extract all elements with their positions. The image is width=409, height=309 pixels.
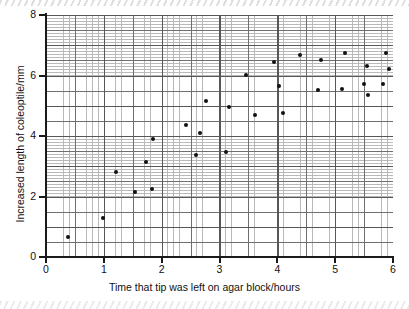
y-tick-mark xyxy=(39,75,46,77)
y-tick-mark xyxy=(39,14,46,16)
y-tick-mark xyxy=(39,196,46,198)
data-point xyxy=(365,64,369,68)
x-tick-label: 2 xyxy=(159,263,165,275)
x-tick-label: 0 xyxy=(43,263,49,275)
y-tick-label-text: 2 xyxy=(30,190,36,202)
x-axis-title: Time that tip was left on agar block/hou… xyxy=(0,281,409,293)
data-point xyxy=(224,150,228,154)
data-point xyxy=(244,73,248,77)
data-point xyxy=(150,187,154,191)
data-point xyxy=(198,131,202,135)
x-tick-label: 3 xyxy=(217,263,223,275)
data-point xyxy=(114,170,118,174)
y-tick-label-text: 4 xyxy=(30,129,36,141)
y-axis-title: Increased length of coleoptile/mm xyxy=(14,19,26,269)
grid-bold xyxy=(46,15,393,257)
x-tick-label: 4 xyxy=(274,263,280,275)
y-tick-label-text: 6 xyxy=(30,69,36,81)
y-tick-mark xyxy=(39,135,46,137)
y-tick-label-text: 8 xyxy=(30,8,36,20)
x-tick-label: 1 xyxy=(101,263,107,275)
plot-area xyxy=(46,15,393,257)
data-point xyxy=(133,190,137,194)
y-tick-label-text: 0 xyxy=(30,250,36,262)
x-tick-label: 6 xyxy=(390,263,396,275)
scatter-plot-figure: 02468 0123456 Time that tip was left on … xyxy=(0,0,409,309)
data-point xyxy=(151,137,155,141)
x-tick-label: 5 xyxy=(332,263,338,275)
